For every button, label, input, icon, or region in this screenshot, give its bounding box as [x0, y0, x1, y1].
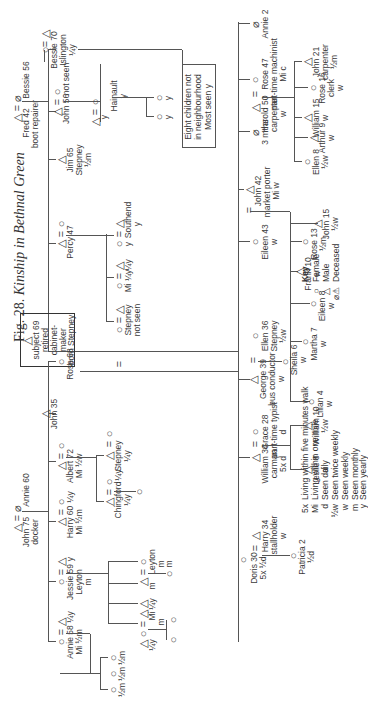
patricia-freq: ½d: [307, 534, 316, 580]
annie-kid-freq: ½m: [118, 666, 127, 682]
female-icon: ○: [164, 568, 175, 580]
annie-kid-freq: ½m: [118, 650, 127, 666]
key-code: y: [358, 504, 368, 522]
doris-freq: 5x ½d: [259, 548, 268, 588]
marriage-sign: =: [104, 438, 115, 450]
bessie-name: Bessie 56: [22, 60, 31, 100]
mi-spouse-freq: ¼y: [124, 258, 133, 272]
leyton-spouse-freq: m: [148, 580, 157, 592]
john75-occupation: docker: [31, 514, 40, 550]
key-code: d: [320, 504, 330, 522]
grandchild-line: ½w: [331, 206, 340, 242]
female-icon: ○: [134, 486, 145, 498]
southend-spouse-freq: y: [133, 220, 142, 228]
drop-line: [108, 583, 138, 584]
key-code: ½w: [330, 504, 340, 522]
descent-line: [262, 445, 290, 446]
sibling-line: [146, 97, 147, 117]
descent-line: [22, 101, 48, 102]
sibling-line: [294, 62, 295, 162]
female-icon: ○: [238, 554, 249, 566]
key-female: Female: [311, 254, 321, 282]
eileen43-freq: w: [270, 222, 279, 262]
drop-line: [90, 673, 100, 674]
grandchild-line: w: [319, 326, 328, 362]
southend-freq: y: [124, 240, 133, 248]
drop-line: [108, 623, 138, 624]
drop-line: [294, 87, 308, 88]
mi-child-freq: m: [157, 616, 166, 628]
key-code: 5x: [300, 504, 310, 522]
line: [90, 634, 91, 674]
key-code-label: Seen daily: [320, 460, 330, 500]
sibling-line: [96, 456, 97, 502]
drop-line: [108, 603, 138, 604]
key-code-label: Seen yearly: [358, 455, 368, 500]
deceased-icon: ⌀⚠: [331, 284, 341, 302]
harry34-freq: w: [279, 516, 288, 556]
descent-line: [66, 633, 90, 634]
percy-name: Percy 47: [66, 222, 75, 262]
chingford-freq: ¼y: [123, 480, 132, 520]
key-code: w: [340, 504, 350, 522]
harold-freq: w: [279, 92, 288, 136]
ellen36-freq: ½w: [279, 316, 288, 356]
annie-kid-freq: ½m: [118, 682, 127, 698]
jessie-child-freq: ¼y: [148, 636, 157, 654]
note-line: in neighbourhood: [194, 68, 203, 146]
albert-freq: Mi ½w: [75, 446, 84, 486]
line: [182, 50, 183, 66]
key-code-label: Living within one mile: [310, 419, 320, 500]
sibling-line: [48, 50, 49, 352]
line: [60, 673, 90, 674]
annie58-freq: Mi ½m: [75, 622, 84, 662]
descent-line: [262, 555, 290, 556]
key-deceased: Deceased: [331, 244, 341, 282]
descent-line: [66, 235, 106, 236]
marriage-sign: =: [114, 358, 125, 370]
descent-line: [262, 97, 294, 98]
william10-freq: ½w: [321, 406, 330, 446]
sibling-line: [100, 658, 101, 690]
key-code-label: Living within five minutes walk: [300, 387, 310, 500]
jessie-freq: m: [84, 562, 93, 602]
female-icon: ○: [311, 284, 321, 298]
infant-name: 3 mths: [261, 112, 270, 152]
female-icon: ○: [168, 614, 179, 626]
descent-line: [148, 629, 166, 630]
harry60-spouse-freq: ¼y: [66, 490, 75, 504]
descent-line: [250, 211, 290, 212]
descent-line: [66, 457, 96, 458]
figure-title-text: Kinship in Bethnal Green: [12, 152, 27, 295]
harry60-freq: Mi ½m: [75, 502, 84, 542]
annie60-name: Annie 60: [22, 470, 31, 510]
chingford-spouse-freq: ¼y: [114, 468, 123, 482]
fred-occupation: boot repairer: [31, 94, 40, 154]
stepney-freq: not seen: [133, 300, 142, 340]
rose68-name: Rose 68: [66, 344, 75, 384]
john42-freq: Mi w: [272, 166, 281, 216]
descent-line: [22, 511, 48, 512]
hainault-spouse-freq: y: [100, 114, 109, 120]
female-icon: ○: [168, 634, 179, 646]
john56-note: not seen: [62, 62, 71, 96]
grandchild-line: ½w: [321, 142, 330, 182]
note-line: Eight children not: [184, 68, 193, 146]
key-code-label: Seen twice weekly: [330, 430, 340, 500]
female-icon: ○: [90, 96, 101, 108]
sibling-line: [290, 426, 291, 470]
sibling-line: [106, 234, 107, 322]
key-code-label: Seen weekly: [340, 452, 350, 500]
descent-line: [112, 97, 146, 98]
drop-line: [48, 243, 56, 244]
key-male: Male: [321, 264, 331, 282]
william34-freq: 5x d: [279, 442, 288, 486]
jim-freq: ½m: [84, 140, 93, 180]
jessie-spouse-freq: y: [66, 554, 75, 564]
drop-line-subject: [48, 351, 238, 352]
sibling-line: [108, 562, 109, 624]
grandchild-line: w: [336, 68, 345, 108]
drop-line: [238, 457, 250, 458]
southend-label: Southend: [124, 200, 133, 240]
drop-line: [78, 49, 182, 50]
